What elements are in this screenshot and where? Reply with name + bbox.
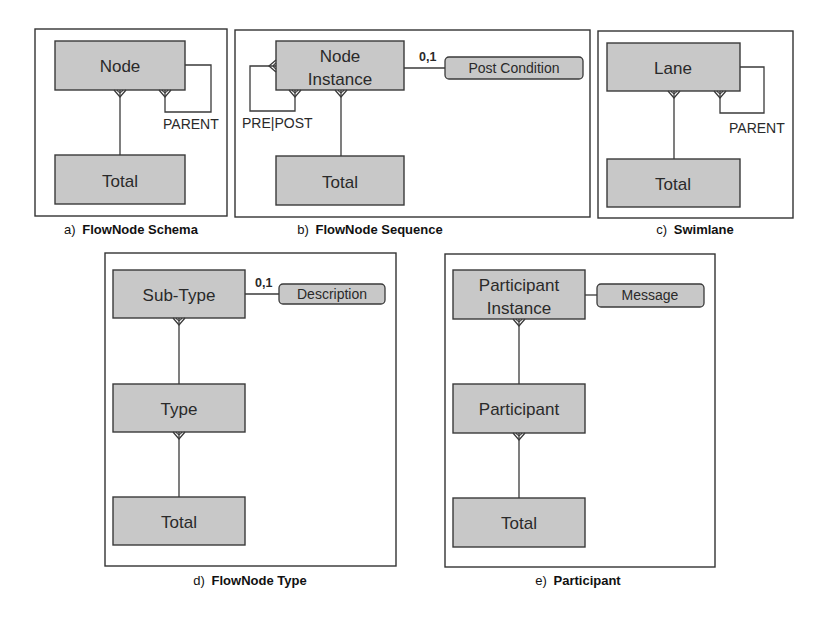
relationship-total-node xyxy=(114,90,126,155)
entity-node-instance-label-line1: Node xyxy=(320,47,361,66)
entity-total-label: Total xyxy=(655,175,691,194)
entity-participant-instance: Participant Instance xyxy=(453,270,585,319)
panel-e-caption: e) Participant xyxy=(535,573,621,588)
entity-sub-type: Sub-Type xyxy=(113,270,245,318)
relationship-post-condition: 0,1 xyxy=(404,50,445,68)
attribute-post-condition-label: Post Condition xyxy=(468,60,559,76)
entity-total: Total xyxy=(453,498,585,547)
panel-e-participant: Participant Instance Participant Total M… xyxy=(445,254,715,588)
panel-a-flownode-schema: Node Total PARENT a) FlowNode Schema xyxy=(35,29,227,237)
panel-a-caption: a) FlowNode Schema xyxy=(64,222,199,237)
entity-lane: Lane xyxy=(607,43,740,91)
role-label-parent: PARENT xyxy=(163,116,219,132)
entity-node: Node xyxy=(55,41,185,90)
entity-total-label: Total xyxy=(501,514,537,533)
er-diagram-figure: Node Total PARENT a) FlowNode Schema Nod… xyxy=(0,0,819,625)
entity-node-label: Node xyxy=(100,57,141,76)
entity-participant-instance-label-line2: Instance xyxy=(487,299,551,318)
relationship-description: 0,1 xyxy=(245,276,279,294)
attribute-post-condition: Post Condition xyxy=(445,57,583,79)
entity-sub-type-label: Sub-Type xyxy=(143,286,216,305)
entity-total: Total xyxy=(607,159,740,207)
panel-b-caption: b) FlowNode Sequence xyxy=(297,222,442,237)
entity-participant-label: Participant xyxy=(479,400,560,419)
entity-total-label: Total xyxy=(102,172,138,191)
entity-participant: Participant xyxy=(453,384,585,433)
relationship-type-sub-type xyxy=(173,318,185,384)
entity-total: Total xyxy=(55,155,185,204)
entity-total-label: Total xyxy=(161,513,197,532)
role-label-parent: PARENT xyxy=(729,120,785,136)
relationship-total-lane xyxy=(668,91,680,159)
entity-type: Type xyxy=(113,384,245,432)
cardinality-label: 0,1 xyxy=(255,276,272,290)
entity-total: Total xyxy=(276,156,404,205)
panel-c-swimlane: Lane Total PARENT c) Swimlane xyxy=(598,31,793,237)
entity-lane-label: Lane xyxy=(654,59,692,78)
relationship-total-participant xyxy=(513,433,525,498)
entity-type-label: Type xyxy=(161,400,198,419)
relationship-total-type xyxy=(173,432,185,497)
panel-d-flownode-type: Sub-Type Type Total 0,1 Description d) xyxy=(105,253,396,588)
cardinality-label: 0,1 xyxy=(419,50,436,64)
attribute-message: Message xyxy=(597,284,704,307)
attribute-message-label: Message xyxy=(622,287,679,303)
panel-b-flownode-sequence: Node Instance Total PRE|POST 0,1 Post Co… xyxy=(235,30,590,237)
relationship-total-node-instance xyxy=(335,90,347,156)
entity-participant-instance-label-line1: Participant xyxy=(479,276,560,295)
entity-total-label: Total xyxy=(322,173,358,192)
panel-c-caption: c) Swimlane xyxy=(656,222,733,237)
attribute-description: Description xyxy=(279,284,385,304)
entity-total: Total xyxy=(113,497,245,545)
entity-node-instance-label-line2: Instance xyxy=(308,70,372,89)
role-label-pre-post: PRE|POST xyxy=(242,115,313,131)
panel-d-caption: d) FlowNode Type xyxy=(193,573,306,588)
attribute-description-label: Description xyxy=(297,286,367,302)
relationship-participant-instance xyxy=(513,319,525,384)
entity-node-instance: Node Instance xyxy=(276,41,404,90)
